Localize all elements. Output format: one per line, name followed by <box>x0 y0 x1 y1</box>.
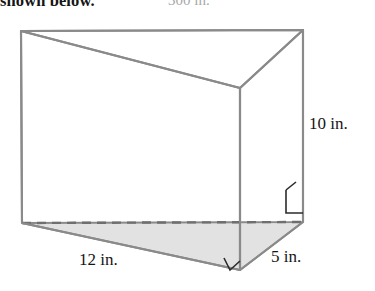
side-bottom-right-angle-icon <box>286 190 303 213</box>
height-label: 10 in. <box>309 114 348 134</box>
base-shaded-face <box>22 222 303 270</box>
top-face <box>21 30 303 88</box>
length-label: 12 in. <box>79 250 118 270</box>
depth-label: 5 in. <box>271 247 301 267</box>
figure-container: shown below. 300 in. 10 in. 12 in. 5 in. <box>0 0 375 291</box>
side-right-angle-diagonal <box>286 182 296 190</box>
triangular-prism-figure <box>0 0 375 291</box>
back-face <box>21 30 303 223</box>
